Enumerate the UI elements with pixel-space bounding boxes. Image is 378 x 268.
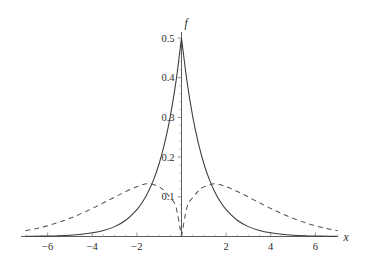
- axis-group: [21, 32, 338, 236]
- x-tick-label: −2: [131, 241, 142, 252]
- x-axis-label: x: [343, 231, 350, 243]
- y-tick-label: 0.4: [161, 72, 175, 83]
- y-tick-label: 0.3: [161, 112, 174, 123]
- plot-figure: −6−4−2246 0.10.20.30.40.5 x f: [0, 0, 378, 268]
- x-tick-label: 4: [268, 241, 274, 252]
- x-tick-label: 2: [223, 241, 228, 252]
- y-axis-tick-labels: 0.10.20.30.40.5: [161, 33, 175, 203]
- x-tick-label: −4: [87, 241, 99, 252]
- y-axis-label: f: [185, 17, 190, 30]
- x-tick-label: 6: [313, 241, 318, 252]
- y-tick-label: 0.2: [161, 152, 174, 163]
- y-tick-label: 0.5: [161, 33, 174, 44]
- x-tick-label: −6: [42, 241, 53, 252]
- x-axis-tick-labels: −6−4−2246: [42, 241, 318, 252]
- plot-svg: −6−4−2246 0.10.20.30.40.5 x f: [0, 0, 378, 268]
